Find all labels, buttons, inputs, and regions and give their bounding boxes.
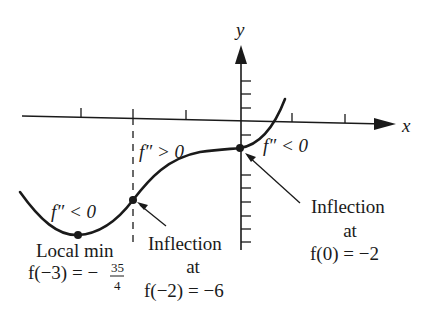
concavity-label-left: f″ < 0 (51, 201, 97, 222)
inflection-left-title: Inflection (148, 233, 222, 254)
concavity-label-right: f″ < 0 (263, 135, 309, 156)
concavity-label-middle: f″ > 0 (139, 141, 185, 162)
fraction-numerator: 35 (111, 260, 124, 275)
x-axis-label: x (401, 115, 411, 136)
inflection-left-value: f(−2) = −6 (144, 280, 224, 302)
local-min-point (74, 231, 82, 239)
concavity-diagram: x y (0, 0, 436, 314)
inflection-left-pointer (137, 202, 166, 226)
inflection-point-right (236, 144, 244, 152)
y-axis-arrow-icon (235, 45, 247, 64)
local-min-title: Local min (36, 240, 114, 261)
inflection-right-connector: at (343, 220, 357, 241)
inflection-right-value: f(0) = −2 (310, 243, 379, 265)
x-axis-arrow-icon (374, 118, 396, 130)
inflection-right-pointer (245, 153, 300, 203)
inflection-right-annotation: Inflection at f(0) = −2 (310, 196, 385, 265)
inflection-left-connector: at (186, 256, 200, 277)
inflection-left-annotation: Inflection at f(−2) = −6 (144, 233, 224, 302)
local-min-value: f(−3) = − (28, 262, 98, 284)
local-min-annotation: Local min f(−3) = − 35 4 (28, 240, 124, 293)
y-axis-label: y (234, 19, 245, 40)
pointer-arrow-icon (137, 202, 148, 210)
fraction-denominator: 4 (114, 278, 121, 293)
x-axis (22, 108, 396, 130)
inflection-point-left (129, 196, 137, 204)
pointer-arrow-icon (245, 153, 256, 162)
inflection-right-title: Inflection (311, 196, 385, 217)
